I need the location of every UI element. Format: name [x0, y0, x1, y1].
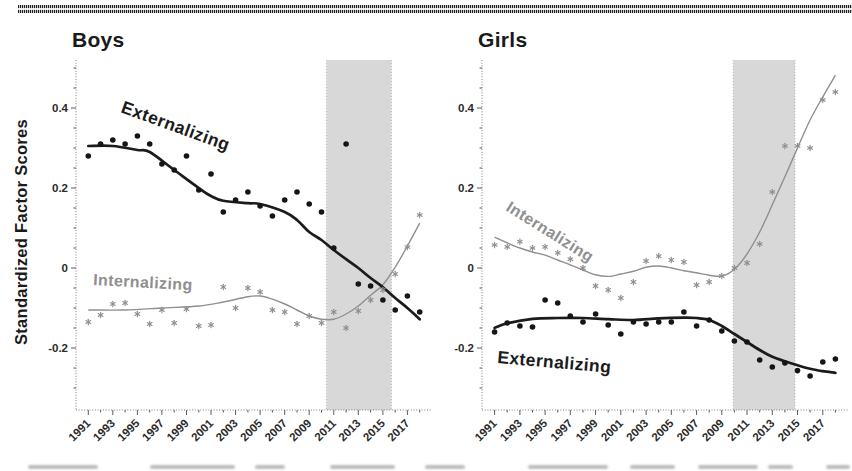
- curve-label-externalizing: Externalizing: [497, 347, 612, 377]
- x-tick-label: 2015: [775, 417, 802, 444]
- caption-fragment: [150, 465, 235, 469]
- y-tick-label: -0.2: [48, 342, 68, 354]
- x-tick-label: 2003: [624, 417, 651, 444]
- caption-fragment: [630, 465, 675, 469]
- y-tick-label: 0: [468, 262, 474, 274]
- x-tick-label: 2013: [336, 417, 363, 444]
- x-tick-label: 2009: [700, 417, 727, 444]
- panel-title: Boys: [72, 28, 125, 51]
- curve-label-internalizing: Internalizing: [93, 271, 193, 293]
- curve-label-externalizing: Externalizing: [119, 97, 233, 155]
- caption-fragment: [528, 465, 608, 469]
- x-tick-label: 1993: [498, 417, 525, 444]
- x-tick-label: 2001: [189, 417, 216, 444]
- y-tick-label: 0.4: [458, 102, 475, 114]
- x-tick-label: 2017: [385, 417, 412, 444]
- x-tick-label: 2011: [312, 417, 339, 444]
- caption-fragment: [255, 465, 285, 469]
- x-tick-label: 2015: [361, 417, 388, 444]
- x-tick-label: 2013: [750, 417, 777, 444]
- y-tick-label: 0.2: [52, 182, 68, 194]
- x-tick-label: 2007: [674, 417, 701, 444]
- x-tick-label: 2005: [238, 417, 265, 444]
- shaded-region: [733, 60, 795, 410]
- curve-label-internalizing: Internalizing: [503, 198, 596, 265]
- y-tick-label: 0.4: [52, 102, 69, 114]
- x-tick-label: 1991: [66, 417, 93, 444]
- x-tick-label: 1995: [523, 417, 550, 444]
- x-tick-label: 1995: [115, 417, 142, 444]
- x-tick-label: 2003: [213, 417, 240, 444]
- panel-title: Girls: [478, 28, 527, 51]
- y-tick-label: 0: [62, 262, 68, 274]
- x-tick-label: 1993: [91, 417, 118, 444]
- x-tick-label: 2011: [725, 417, 752, 444]
- x-tick-label: 1991: [472, 417, 499, 444]
- caption-fragment: [768, 465, 793, 469]
- figure-page: -0.200.20.419911993199519971999200120032…: [0, 0, 852, 471]
- x-tick-label: 2001: [599, 417, 626, 444]
- x-tick-label: 2017: [801, 417, 828, 444]
- x-tick-label: 1999: [573, 417, 600, 444]
- y-tick-label: -0.2: [454, 342, 474, 354]
- x-tick-label: 1999: [164, 417, 191, 444]
- x-tick-label: 2007: [263, 417, 290, 444]
- caption-fragment: [425, 465, 465, 469]
- x-tick-label: 2005: [649, 417, 676, 444]
- shaded-region: [326, 60, 391, 410]
- caption-fragment: [28, 465, 98, 469]
- caption-fragment: [330, 465, 395, 469]
- y-axis-title: Standardized Factor Scores: [12, 119, 30, 345]
- boys-panel: -0.200.20.419911993199519971999200120032…: [48, 28, 432, 444]
- top-rule-halftone: [18, 5, 852, 13]
- x-tick-label: 1997: [140, 417, 167, 444]
- caption-fragment: [826, 465, 850, 469]
- x-tick-label: 1997: [548, 417, 575, 444]
- standardized-factor-scores-figure: -0.200.20.419911993199519971999200120032…: [0, 0, 852, 471]
- girls-panel: -0.200.20.419911993199519971999200120032…: [454, 28, 848, 444]
- y-tick-label: 0.2: [458, 182, 474, 194]
- caption-fragment: [698, 465, 758, 469]
- x-tick-label: 2009: [287, 417, 314, 444]
